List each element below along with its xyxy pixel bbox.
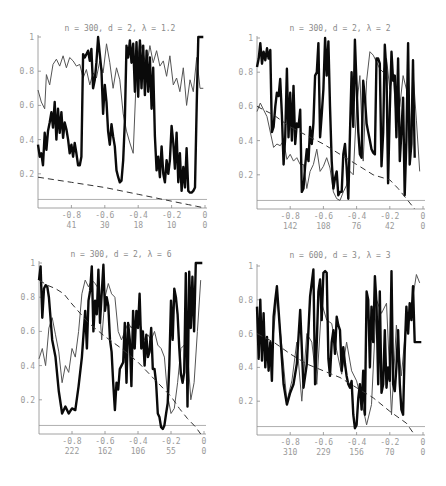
series-thick-line: [38, 37, 203, 193]
x-tick-label: 0: [203, 211, 208, 220]
x-tick-label-secondary: 0: [202, 447, 207, 456]
y-tick-label: 1: [30, 259, 35, 268]
y-tick-label: 0.2: [239, 171, 254, 180]
chart-panel-2: n = 300, d = 2, λ = 20.20.40.60.81-0.814…: [239, 24, 426, 231]
x-tick-label-secondary: 229: [316, 448, 331, 457]
y-tick-label: 0.8: [21, 293, 36, 302]
x-tick-label: -0.2: [161, 437, 180, 446]
x-tick-label: -0.2: [162, 211, 181, 220]
x-tick-label-secondary: 106: [131, 447, 146, 456]
series-thick-line: [257, 269, 421, 428]
y-tick-label: 0.6: [239, 102, 254, 111]
x-tick-label-secondary: 55: [166, 447, 176, 456]
y-tick-label: 0.8: [239, 68, 254, 77]
y-tick-label: 0.8: [239, 296, 254, 305]
x-tick-label: -0.4: [347, 212, 366, 221]
x-tick-label: 0: [421, 438, 426, 447]
x-tick-label: -0.6: [314, 438, 333, 447]
x-tick-label: -0.8: [62, 211, 81, 220]
y-tick-label: 0.2: [20, 170, 35, 179]
x-tick-label: -0.2: [380, 438, 399, 447]
y-tick-label: 0.6: [21, 327, 36, 336]
chart-title: n = 300, d = 2, λ = 6: [70, 250, 171, 259]
x-tick-label-secondary: 41: [67, 221, 77, 230]
y-tick-label: 0.6: [20, 101, 35, 110]
y-tick-label: 0.2: [21, 396, 36, 405]
x-tick-label-secondary: 162: [98, 447, 113, 456]
x-tick-label-secondary: 30: [100, 221, 110, 230]
chart-title: n = 300, d = 2, λ = 1.2: [65, 24, 176, 33]
x-tick-label-secondary: 42: [385, 222, 395, 231]
y-tick-label: 0.4: [21, 362, 36, 371]
series-thick-line: [257, 38, 415, 199]
y-tick-label: 0.4: [239, 137, 254, 146]
x-tick-label-secondary: 0: [203, 221, 208, 230]
x-tick-label-secondary: 0: [421, 448, 426, 457]
x-tick-label: -0.2: [380, 212, 399, 221]
x-tick-label-secondary: 18: [133, 221, 143, 230]
series-thick-line: [39, 263, 202, 429]
y-tick-label: 0.4: [239, 363, 254, 372]
x-tick-label-secondary: 310: [283, 448, 298, 457]
x-tick-label-secondary: 108: [316, 222, 331, 231]
chart-panel-1: n = 300, d = 2, λ = 1.20.20.40.60.81-0.8…: [20, 24, 208, 230]
x-tick-label: -0.6: [95, 211, 114, 220]
chart-title: n = 300, d = 2, λ = 2: [289, 24, 390, 33]
chart-figure: n = 300, d = 2, λ = 1.20.20.40.60.81-0.8…: [0, 0, 446, 486]
y-tick-label: 1: [248, 34, 253, 43]
x-tick-label-secondary: 142: [283, 222, 298, 231]
y-tick-label: 0.4: [20, 136, 35, 145]
x-tick-label-secondary: 70: [385, 448, 395, 457]
chart-panel-4: n = 600, d = 3, λ = 30.20.40.60.81-0.831…: [239, 251, 426, 457]
x-tick-label-secondary: 10: [167, 221, 177, 230]
y-tick-label: 1: [248, 262, 253, 271]
x-tick-label: 0: [202, 437, 207, 446]
x-tick-label: -0.4: [347, 438, 366, 447]
x-tick-label-secondary: 0: [421, 222, 426, 231]
y-tick-label: 1: [29, 33, 34, 42]
chart-panel-3: n = 300, d = 2, λ = 60.20.40.60.81-0.822…: [21, 250, 207, 456]
x-tick-label-secondary: 156: [349, 448, 364, 457]
x-tick-label: -0.4: [129, 211, 148, 220]
y-tick-label: 0.8: [20, 67, 35, 76]
x-tick-label: -0.8: [62, 437, 81, 446]
x-tick-label: -0.8: [281, 438, 300, 447]
chart-title: n = 600, d = 3, λ = 3: [289, 251, 390, 260]
x-tick-label-secondary: 222: [65, 447, 80, 456]
x-tick-label: -0.6: [314, 212, 333, 221]
y-tick-label: 0.6: [239, 330, 254, 339]
y-tick-label: 0.2: [239, 397, 254, 406]
x-tick-label: 0: [421, 212, 426, 221]
series-dashed-line: [257, 106, 415, 209]
x-tick-label: -0.8: [281, 212, 300, 221]
x-tick-label: -0.4: [128, 437, 147, 446]
x-tick-label-secondary: 76: [352, 222, 362, 231]
x-tick-label: -0.6: [95, 437, 114, 446]
